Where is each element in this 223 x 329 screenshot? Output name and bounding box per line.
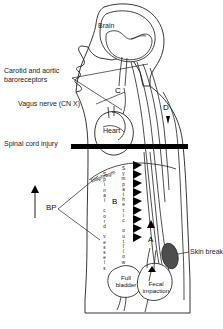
vagus-nerve-label: Vagus nerve (CN X): [18, 100, 80, 108]
spinal-cord-injury-bar: [71, 144, 188, 149]
brainstem: [119, 57, 122, 86]
arrowhead-d-descending: [166, 116, 170, 124]
rectum: [145, 299, 148, 312]
bp-label: BP: [46, 204, 57, 212]
marker-d: D: [163, 103, 169, 112]
baroreceptors-label-line2: baroreceptors: [4, 76, 59, 85]
urethra-2: [124, 297, 126, 311]
fecal-impaction-label-line2: impaction: [137, 287, 175, 294]
nerve-tract-1: [131, 62, 162, 280]
marker-a: A: [148, 235, 153, 244]
leader-baroreceptors: [72, 64, 148, 78]
heart-label: Heart: [103, 127, 120, 135]
baroreceptors-label: Carotid and aortic baroreceptors: [4, 67, 59, 84]
spinal-cord-vessels-label: Spinal cord vessels: [102, 172, 107, 271]
spinal-cord-injury-label: Spinal cord injury: [4, 140, 58, 148]
skin-breakdown-label: Skin breakdown: [190, 248, 223, 256]
vagus-tract: [123, 88, 125, 114]
brainstem-2: [125, 58, 127, 86]
sympathetic-outflow-triangles: [133, 161, 142, 242]
bp-arrow-head: [31, 185, 39, 193]
diagram-canvas: Brain Carotid and aortic baroreceptors V…: [0, 0, 223, 329]
nerve-tract-2: [137, 62, 170, 276]
brain-label: Brain: [98, 22, 114, 30]
fecal-impaction-label-line1: Fecal: [137, 280, 175, 287]
nerve-tract-4: [150, 68, 169, 190]
leader-bp-lower: [58, 209, 100, 240]
sympathetic-outflow-label: Sympathetic outflow: [121, 166, 126, 265]
urethra: [117, 297, 121, 310]
baroreceptors-label-line1: Carotid and aortic: [4, 67, 59, 76]
marker-b: B: [112, 197, 117, 206]
fecal-impaction-label: Fecal impaction: [137, 280, 175, 294]
marker-c: C: [115, 86, 121, 95]
